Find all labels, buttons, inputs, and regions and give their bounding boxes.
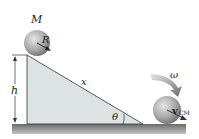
velocity-subscript: CM [179, 109, 190, 116]
incline-length-label: x [81, 76, 87, 87]
radius-label: R [41, 34, 50, 45]
velocity-label: v [171, 105, 179, 116]
angle-label: θ [112, 111, 118, 122]
ramp [27, 55, 143, 124]
mass-label: M [30, 13, 43, 26]
incline-diagram: θ h x M R ω v CM [0, 0, 199, 139]
omega-label: ω [170, 69, 178, 80]
height-label: h [11, 84, 18, 97]
ground [12, 124, 186, 134]
